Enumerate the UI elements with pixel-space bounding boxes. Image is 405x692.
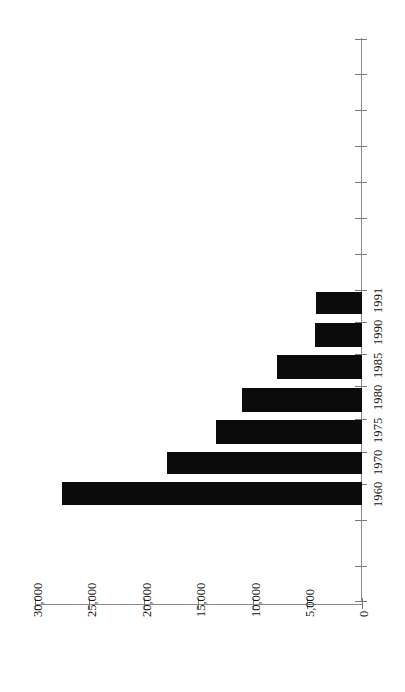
value-axis-tick: [362, 598, 363, 609]
category-axis-tick: [355, 218, 367, 219]
category-axis-tick: [355, 146, 367, 147]
bar-1960: [62, 482, 362, 505]
category-axis-tick: [355, 566, 367, 567]
bar-1975: [216, 420, 362, 444]
category-axis-tick: [355, 182, 367, 183]
category-axis-tick: [355, 110, 367, 111]
value-label-10000: 10,000: [249, 583, 264, 617]
category-axis-line: [361, 38, 362, 601]
category-label-1990: 1990: [371, 320, 386, 345]
category-axis-tick: [355, 386, 367, 387]
bar-1990: [315, 323, 362, 347]
bar-1980: [242, 388, 362, 412]
category-axis-tick: [355, 290, 367, 291]
category-label-1980: 1980: [371, 385, 386, 410]
category-label-1975: 1975: [371, 418, 386, 443]
value-label-0: 0: [357, 611, 372, 617]
chart-figure: 1991 1990 1985 1980 1975 1970 1960 0 5,0…: [0, 0, 405, 692]
value-label-30000: 30,000: [31, 583, 46, 617]
category-axis-tick: [355, 520, 367, 521]
category-axis-tick: [355, 39, 367, 40]
category-label-1960: 1960: [371, 482, 386, 507]
category-label-1985: 1985: [371, 353, 386, 378]
bar-1985: [277, 355, 362, 379]
value-label-20000: 20,000: [140, 583, 155, 617]
value-label-5000: 5,000: [303, 589, 318, 617]
plot-area: 1991 1990 1985 1980 1975 1970 1960 0 5,0…: [0, 0, 405, 692]
category-axis-tick: [355, 601, 367, 602]
value-label-15000: 15,000: [194, 583, 209, 617]
bar-1970: [167, 452, 362, 474]
category-axis-tick: [355, 74, 367, 75]
category-label-1970: 1970: [371, 450, 386, 475]
bar-1991: [316, 292, 362, 314]
value-label-25000: 25,000: [85, 583, 100, 617]
category-label-1991: 1991: [371, 288, 386, 313]
category-axis-tick: [355, 254, 367, 255]
